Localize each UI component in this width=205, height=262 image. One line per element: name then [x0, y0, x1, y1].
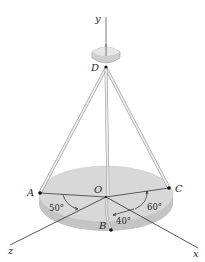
label-y-axis: y [95, 14, 101, 24]
label-point-d: D [91, 63, 99, 73]
angle-label-40: 40° [116, 217, 131, 226]
point-c-dot [167, 186, 171, 190]
label-point-c: C [175, 184, 183, 194]
label-point-a: A [27, 188, 34, 198]
label-z-axis: z [8, 246, 13, 256]
label-point-o: O [94, 185, 102, 195]
point-a-dot [38, 191, 42, 195]
angle-label-50: 50° [49, 204, 64, 213]
point-d-dot [104, 65, 107, 68]
label-x-axis: x [193, 249, 199, 259]
angle-label-60: 60° [147, 203, 162, 212]
label-point-b: B [99, 221, 106, 231]
point-b-dot [109, 228, 113, 232]
point-o-dot [105, 196, 107, 198]
